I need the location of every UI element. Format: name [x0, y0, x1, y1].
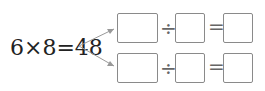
- dividend-input-1[interactable]: [117, 13, 158, 43]
- quotient-input-1[interactable]: [223, 13, 253, 43]
- divisor-input-2[interactable]: [175, 53, 205, 83]
- quotient-input-2[interactable]: [223, 53, 253, 83]
- divisor-input-1[interactable]: [175, 13, 205, 43]
- dividend-input-2[interactable]: [117, 53, 158, 83]
